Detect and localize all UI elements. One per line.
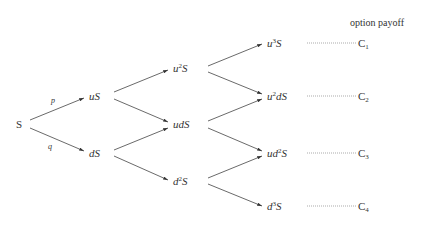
branch-label-p: p — [51, 97, 55, 105]
option-payoff-header: option payoff — [350, 18, 404, 28]
node-dS: dS — [89, 148, 100, 159]
node-udS: udS — [173, 119, 190, 130]
node-ud2S: ud2S — [267, 148, 287, 159]
payoff-C1: C1 — [358, 38, 369, 51]
binomial-tree-edges — [0, 0, 421, 226]
node-u3S: u3S — [267, 38, 282, 49]
node-u2S: u2S — [173, 63, 188, 74]
payoff-C3: C3 — [358, 148, 369, 161]
node-d2S: d2S — [173, 176, 188, 187]
node-d3S: d3S — [267, 201, 282, 212]
node-uS: uS — [89, 91, 100, 102]
payoff-C4: C4 — [358, 201, 369, 214]
node-u2dS: u2dS — [267, 91, 287, 102]
node-S: S — [16, 119, 22, 130]
payoff-C2: C2 — [358, 91, 369, 104]
branch-label-q: q — [48, 143, 52, 151]
